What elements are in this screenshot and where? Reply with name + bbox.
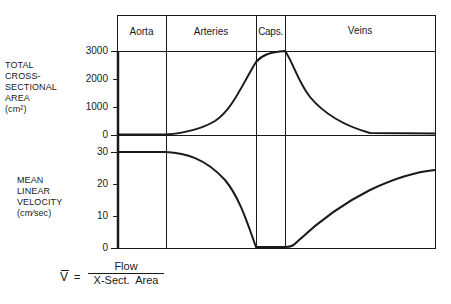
chart-frame [118, 16, 436, 249]
vascular-chart [0, 0, 451, 304]
formula-numerator: Flow [88, 260, 164, 273]
formula-lhs: V [60, 270, 68, 284]
velocity-curve [118, 152, 435, 247]
formula-fraction: Flow X-Sect. Area [88, 260, 164, 287]
overbar [61, 270, 69, 271]
velocity-symbol: V [60, 270, 68, 284]
formula-denominator: X-Sect. Area [88, 274, 164, 287]
area-curve [118, 51, 435, 135]
formula-equals: = [74, 271, 80, 283]
